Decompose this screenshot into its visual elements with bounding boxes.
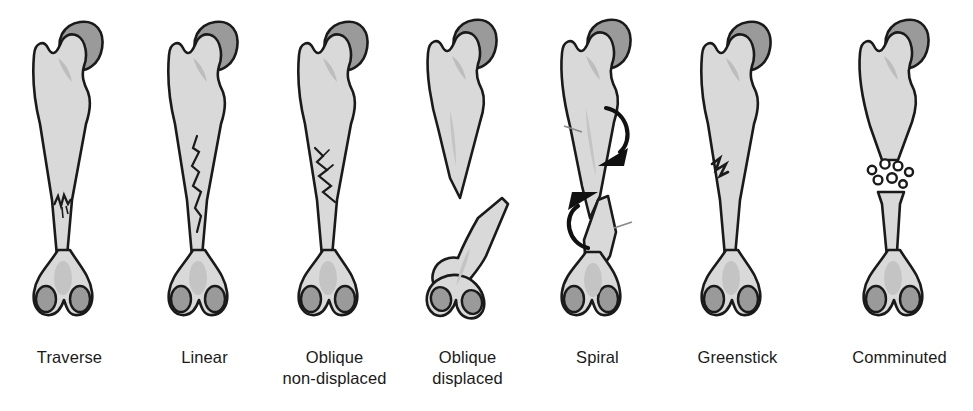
fragment-1 — [868, 166, 876, 174]
femur-greenstick — [701, 22, 770, 315]
bone-illustration-spiral — [528, 0, 667, 345]
panel-oblique-displaced: Oblique displaced — [398, 0, 537, 411]
fragment-4 — [905, 168, 913, 176]
caption-line2: non-displaced — [265, 368, 404, 389]
fragment-7 — [899, 180, 907, 188]
caption-greenstick: Greenstick — [668, 347, 807, 368]
femur-oblique-non-displaced — [298, 22, 367, 315]
medial-condyle — [564, 286, 584, 312]
fragment-6 — [887, 173, 897, 183]
bone-illustration-traverse — [0, 0, 139, 345]
caption-spiral: Spiral — [528, 347, 667, 368]
distal-shading — [584, 263, 602, 297]
distal-shading — [884, 261, 902, 295]
fracture-hint-lower — [614, 222, 632, 228]
caption-line1: Comminuted — [852, 348, 947, 366]
medial-condyle — [171, 286, 191, 312]
distal-shading — [54, 261, 72, 295]
caption-traverse: Traverse — [0, 347, 139, 368]
femur-oblique-displaced-distal — [427, 198, 508, 318]
distal-shading — [319, 261, 337, 295]
caption-line2: displaced — [398, 368, 537, 389]
femur-proximal-shaft — [33, 34, 89, 268]
panel-traverse: Traverse — [0, 0, 139, 411]
femur-traverse — [33, 22, 102, 315]
medial-condyle — [36, 286, 56, 312]
panel-greenstick: Greenstick — [668, 0, 807, 411]
proximal-fragment — [428, 32, 484, 198]
caption-comminuted: Comminuted — [830, 347, 969, 368]
fragment-3 — [894, 162, 903, 171]
femur-oblique-displaced-proximal — [428, 20, 497, 198]
lateral-condyle — [738, 286, 758, 312]
proximal-fragment — [860, 32, 916, 160]
caption-oblique-non-displaced: Oblique non-displaced — [265, 347, 404, 389]
medial-condyle — [866, 286, 886, 312]
bone-illustration-greenstick — [668, 0, 807, 345]
bone-fracture-types-figure: Traverse Linear — [0, 0, 973, 411]
femur-linear — [168, 22, 237, 315]
fragment-2 — [880, 159, 889, 168]
caption-linear: Linear — [135, 347, 274, 368]
caption-line1: Linear — [181, 348, 227, 366]
caption-line1: Traverse — [37, 348, 102, 366]
caption-line1: Oblique — [306, 348, 364, 366]
panel-spiral: Spiral — [528, 0, 667, 411]
distal-shading — [722, 261, 740, 295]
bone-illustration-comminuted — [830, 0, 969, 345]
bone-fragments-cluster — [868, 159, 913, 187]
bone-illustration-oblique-non-displaced — [265, 0, 404, 345]
lateral-condyle — [900, 286, 920, 312]
distal-shading — [189, 261, 207, 295]
lateral-condyle — [205, 286, 225, 312]
caption-line1: Greenstick — [698, 348, 778, 366]
medial-condyle — [301, 286, 321, 312]
femur-spiral-proximal — [561, 20, 630, 218]
femur-comminuted-distal — [864, 192, 923, 315]
panel-comminuted: Comminuted — [830, 0, 969, 411]
caption-oblique-displaced: Oblique displaced — [398, 347, 537, 389]
fragment-5 — [874, 176, 883, 185]
femur-proximal-shaft — [298, 34, 354, 268]
femur-comminuted-proximal — [860, 20, 929, 160]
lateral-condyle — [70, 286, 90, 312]
bone-illustration-linear — [135, 0, 274, 345]
femur-proximal-shaft — [701, 34, 757, 268]
panel-linear: Linear — [135, 0, 274, 411]
lateral-condyle — [598, 286, 618, 312]
bone-illustration-oblique-displaced — [398, 0, 537, 345]
caption-line1: Oblique — [439, 348, 497, 366]
lateral-condyle — [335, 286, 355, 312]
caption-line1: Spiral — [576, 348, 619, 366]
medial-condyle — [704, 286, 724, 312]
panel-oblique-non-displaced: Oblique non-displaced — [265, 0, 404, 411]
